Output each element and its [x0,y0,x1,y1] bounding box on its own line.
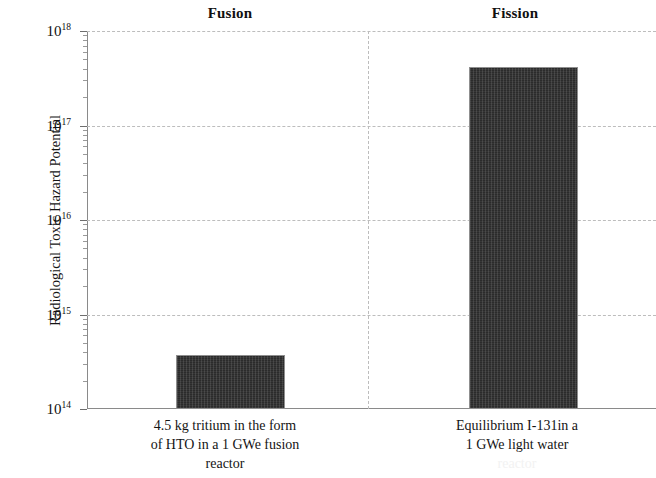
caption-line: Equilibrium I-131in a [378,416,656,435]
group-divider [368,31,369,409]
bar-fission [469,67,578,409]
y-tick-minor [83,192,87,193]
category-caption-fusion: 4.5 kg tritium in the form of HTO in a 1… [75,416,375,473]
y-tick-minor [83,130,87,131]
y-tick-label-1e16: 1016 [47,212,72,229]
y-tick-minor [83,52,87,53]
y-tick-minor [83,381,87,382]
y-tick-minor [83,329,87,330]
y-tick-minor [83,224,87,225]
y-tick-major-1e16: 1016 [80,220,87,221]
y-tick-minor [83,343,87,344]
bar-fusion [176,355,285,409]
y-tick-minor [83,40,87,41]
y-tick-minor [83,335,87,336]
chart-figure: Fusion Fission Radiological Toxic Hazard… [0,0,656,478]
caption-line: 1 GWe light water [378,435,656,454]
y-tick-minor [83,69,87,70]
y-tick-minor [83,241,87,242]
y-tick-minor [83,59,87,60]
y-tick-minor [83,175,87,176]
y-tick-major-1e17: 1017 [80,126,87,127]
plot-area: 1018 1017 1016 1015 1014 [87,31,656,409]
y-tick-major-1e15: 1015 [80,315,87,316]
y-tick-label-1e17: 1017 [47,117,72,134]
y-tick-minor [83,248,87,249]
y-tick-label-1e18: 1018 [47,23,72,40]
y-tick-minor [83,97,87,98]
caption-line: reactor [75,454,375,473]
y-tick-minor [83,229,87,230]
caption-line-clipped: reactor [378,454,656,473]
y-tick-minor [83,319,87,320]
y-tick-minor [83,269,87,270]
y-tick-minor [83,258,87,259]
y-tick-major-1e14: 1014 [80,409,87,410]
group-header-fission: Fission [435,5,595,22]
y-tick-minor [83,80,87,81]
y-tick-minor [83,140,87,141]
y-tick-minor [83,352,87,353]
y-tick-major-1e18: 1018 [80,31,87,32]
category-caption-fission: Equilibrium I-131in a 1 GWe light water … [378,416,656,473]
y-tick-label-1e15: 1015 [47,306,72,323]
y-tick-label-1e14: 1014 [47,401,72,418]
y-tick-minor [83,154,87,155]
gridline-1e18 [87,31,656,32]
y-tick-minor [83,146,87,147]
y-tick-minor [83,163,87,164]
y-tick-minor [83,135,87,136]
y-tick-minor [83,286,87,287]
y-tick-minor [83,364,87,365]
caption-line: 4.5 kg tritium in the form [75,416,375,435]
y-tick-minor [83,235,87,236]
caption-line: of HTO in a 1 GWe fusion [75,435,375,454]
group-header-fusion: Fusion [150,5,310,22]
y-tick-minor [83,46,87,47]
y-tick-minor [83,35,87,36]
y-tick-minor [83,324,87,325]
